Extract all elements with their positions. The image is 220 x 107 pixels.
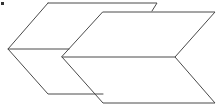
chevron-diagram [0,0,220,107]
front-chevron [62,12,215,103]
back-chevron-top-edge [48,3,157,11]
